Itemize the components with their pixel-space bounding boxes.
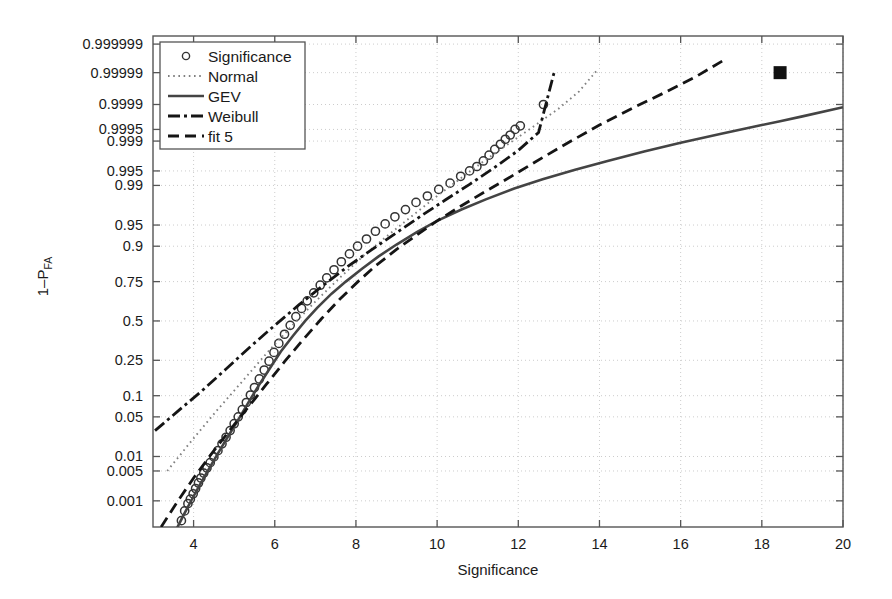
x-tick-label: 18 bbox=[754, 536, 770, 552]
data-point-circle bbox=[362, 235, 370, 243]
data-point-circle bbox=[345, 250, 353, 258]
x-tick-label: 20 bbox=[835, 536, 851, 552]
data-point-circle bbox=[371, 227, 379, 235]
y-tick-label: 0.001 bbox=[107, 493, 143, 509]
x-tick-label: 4 bbox=[190, 536, 198, 552]
legend[interactable]: SignificanceNormalGEVWeibullfit 5 bbox=[160, 42, 305, 149]
y-axis-title-subscript: FA bbox=[42, 257, 54, 270]
y-tick-label: 0.75 bbox=[115, 274, 143, 290]
probability-plot-figure: 0.9999990.999990.99990.99950.9990.9950.9… bbox=[0, 0, 892, 599]
x-tick-label: 6 bbox=[271, 536, 279, 552]
legend-item-label: fit 5 bbox=[208, 128, 233, 145]
y-tick-label: 0.999999 bbox=[83, 36, 143, 52]
data-point-circle bbox=[270, 348, 278, 356]
data-point-circle bbox=[280, 330, 288, 338]
x-axis-title: Significance bbox=[458, 561, 539, 578]
y-tick-label: 0.1 bbox=[123, 388, 143, 404]
special-markers bbox=[774, 66, 787, 79]
legend-item-label: Weibull bbox=[208, 108, 259, 125]
y-tick-label: 0.25 bbox=[115, 352, 143, 368]
data-point-circle bbox=[292, 312, 300, 320]
series-significance-markers bbox=[177, 100, 547, 524]
operating-point-marker bbox=[774, 66, 787, 79]
y-tick-label: 0.005 bbox=[107, 463, 143, 479]
data-point-circle bbox=[412, 198, 420, 206]
legend-item-label: Normal bbox=[208, 68, 258, 85]
legend-item-label: GEV bbox=[208, 88, 241, 105]
y-tick-label: 0.05 bbox=[115, 409, 143, 425]
chart-canvas: 0.9999990.999990.99990.99950.9990.9950.9… bbox=[0, 0, 892, 599]
y-tick-label: 0.99 bbox=[115, 177, 143, 193]
axis-titles: Significance1–PFA bbox=[34, 257, 538, 578]
data-point-circle bbox=[330, 266, 338, 274]
y-tick-label: 0.9 bbox=[123, 238, 143, 254]
data-point-circle bbox=[457, 172, 465, 180]
x-tick-label: 12 bbox=[510, 536, 526, 552]
y-axis-title-main: 1–P bbox=[34, 270, 51, 297]
data-point-circle bbox=[381, 220, 389, 228]
x-tick-label: 14 bbox=[591, 536, 607, 552]
data-point-circle bbox=[337, 258, 345, 266]
data-point-circle bbox=[391, 213, 399, 221]
x-tick-label: 8 bbox=[352, 536, 360, 552]
x-tick-label: 16 bbox=[673, 536, 689, 552]
y-tick-label: 0.5 bbox=[123, 313, 143, 329]
y-tick-label: 0.99999 bbox=[91, 65, 143, 81]
y-tick-label: 0.95 bbox=[115, 217, 143, 233]
data-point-circle bbox=[435, 185, 443, 193]
data-point-circle bbox=[423, 192, 431, 200]
y-axis-title: 1–PFA bbox=[34, 257, 54, 297]
legend-item-label: Significance bbox=[208, 48, 292, 65]
x-tick-label: 10 bbox=[429, 536, 445, 552]
y-tick-label: 0.999 bbox=[107, 133, 143, 149]
data-point-circle bbox=[401, 205, 409, 213]
y-tick-label: 0.9999 bbox=[99, 96, 143, 112]
